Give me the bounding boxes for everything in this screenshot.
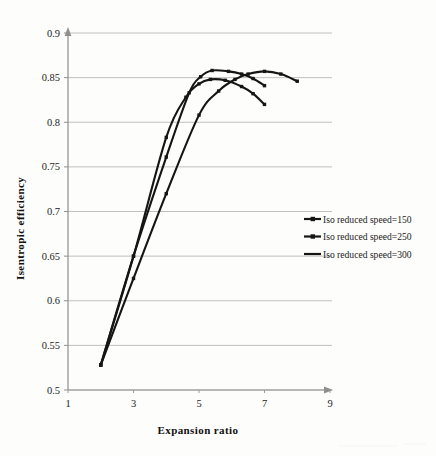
isentropic-efficiency-chart: 0.50.550.60.650.70.750.80.850.9 13579 Is… <box>0 0 436 456</box>
data-point-marker <box>187 91 190 94</box>
y-tick-label: 0.85 <box>42 72 60 83</box>
legend-label: Iso reduced speed=150 <box>323 214 412 225</box>
data-point-marker <box>165 192 168 195</box>
chart-figure: 0.50.550.60.650.70.750.80.850.9 13579 Is… <box>0 0 436 456</box>
y-tick-label: 0.55 <box>42 340 60 351</box>
data-point-marker <box>99 363 102 366</box>
data-point-marker <box>240 85 243 88</box>
data-point-marker <box>296 80 299 83</box>
data-point-marker <box>263 70 266 73</box>
data-point-marker <box>233 78 236 81</box>
data-point-marker <box>197 82 200 85</box>
data-point-marker <box>246 72 249 75</box>
x-axis-title: Expansion ratio <box>158 424 239 436</box>
data-point-marker <box>165 155 168 158</box>
data-point-marker <box>263 103 266 106</box>
data-point-marker <box>251 77 254 80</box>
data-point-marker <box>251 92 254 95</box>
data-point-marker <box>132 277 135 280</box>
y-tick-label: 0.65 <box>42 251 60 262</box>
x-tick-label: 7 <box>262 398 267 409</box>
x-tick-label: 5 <box>196 398 201 409</box>
data-point-marker <box>165 136 168 139</box>
data-point-marker <box>279 72 282 75</box>
y-tick-label: 0.9 <box>47 28 60 39</box>
data-point-marker <box>197 113 200 116</box>
y-axis-title: Isentropic efficiency <box>14 177 26 280</box>
data-point-marker <box>132 254 135 257</box>
x-tick-label: 3 <box>131 398 136 409</box>
legend-label: Iso reduced speed=250 <box>323 231 412 242</box>
data-point-marker <box>209 78 212 81</box>
legend-swatch-marker <box>311 217 315 221</box>
y-tick-label: 0.5 <box>47 385 60 396</box>
legend-swatch-marker <box>311 234 315 238</box>
data-point-marker <box>199 75 202 78</box>
data-point-marker <box>263 84 266 87</box>
y-tick-label: 0.75 <box>42 161 60 172</box>
data-point-marker <box>227 70 230 73</box>
x-tick-label: 9 <box>327 398 332 409</box>
data-point-marker <box>217 89 220 92</box>
data-point-marker <box>224 79 227 82</box>
y-tick-label: 0.7 <box>47 206 60 217</box>
data-point-marker <box>210 69 213 72</box>
y-tick-label: 0.8 <box>47 117 60 128</box>
x-tick-label: 1 <box>65 398 70 409</box>
chart-background <box>0 0 436 456</box>
y-tick-label: 0.6 <box>47 295 60 306</box>
